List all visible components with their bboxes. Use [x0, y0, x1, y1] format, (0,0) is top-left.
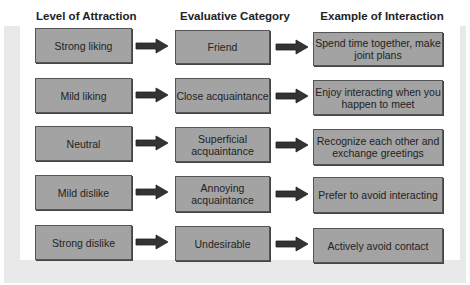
arrow-icon: [275, 186, 309, 202]
category-box-friend: Friend: [175, 30, 270, 64]
arrow-icon: [275, 137, 309, 153]
example-box-prefer-avoid: Prefer to avoid interacting: [313, 177, 443, 213]
header-example-of-interaction: Example of Interaction: [312, 10, 452, 22]
level-box-neutral: Neutral: [35, 126, 132, 161]
category-box-close-acquaintance: Close acquaintance: [175, 78, 270, 113]
arrow-icon: [135, 234, 169, 250]
example-box-enjoy-interacting: Enjoy interacting when you happen to mee…: [313, 80, 443, 115]
example-box-spend-time: Spend time together, make joint plans: [313, 32, 443, 66]
example-box-actively-avoid: Actively avoid contact: [313, 228, 443, 263]
category-box-undesirable: Undesirable: [175, 226, 270, 261]
arrow-icon: [275, 236, 309, 252]
header-level-of-attraction: Level of Attraction: [36, 10, 136, 22]
level-box-strong-dislike: Strong dislike: [35, 225, 132, 260]
arrow-icon: [275, 39, 309, 55]
level-box-strong-liking: Strong liking: [35, 28, 132, 63]
level-box-mild-dislike: Mild dislike: [35, 175, 132, 210]
arrow-icon: [275, 88, 309, 104]
category-box-superficial-acquaintance: Superficial acquaintance: [175, 127, 270, 162]
arrow-icon: [135, 135, 169, 151]
level-box-mild-liking: Mild liking: [35, 78, 132, 113]
category-box-annoying-acquaintance: Annoying acquaintance: [175, 176, 270, 212]
arrow-icon: [135, 38, 169, 54]
arrow-icon: [135, 87, 169, 103]
header-evaluative-category: Evaluative Category: [175, 10, 295, 22]
arrow-icon: [135, 184, 169, 200]
example-box-recognize: Recognize each other and exchange greeti…: [313, 129, 443, 165]
